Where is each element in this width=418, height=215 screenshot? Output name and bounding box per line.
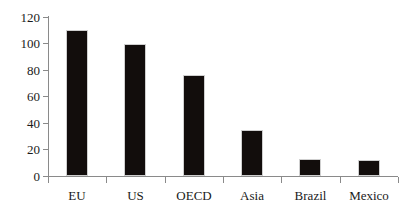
x-axis-tick [340,177,341,183]
bar-chart: 0 20 40 60 80 100 120 EU US OECD Asi [0,0,418,215]
x-axis-label-oecd: OECD [165,188,223,203]
y-axis-tick-label-40: 40 [0,117,40,130]
y-axis-tick-label-text: 120 [2,11,40,24]
bar-oecd [183,75,205,176]
x-axis-tick [281,177,282,183]
bar-us [124,44,146,177]
y-axis-tick-label-20: 20 [0,143,40,156]
bar-mexico [358,160,380,176]
y-axis-tick-label-80: 80 [0,64,40,77]
y-axis-tick-label-text: 0 [2,170,40,183]
x-axis-tick [48,177,49,183]
bars-container [48,17,398,176]
y-axis-tick-label-text: 80 [2,64,40,77]
y-axis-tick-label-120: 120 [0,11,40,24]
x-axis-tick [106,177,107,183]
y-axis-tick-label-text: 20 [2,143,40,156]
y-axis-tick-label-text: 40 [2,117,40,130]
y-axis-tick-label-text: 60 [2,90,40,103]
bar-asia [241,130,263,176]
x-axis-label-brazil: Brazil [281,188,340,203]
x-axis-tick [165,177,166,183]
x-axis-label-mexico: Mexico [340,188,398,203]
bar-brazil [299,159,321,176]
x-axis-label-asia: Asia [223,188,281,203]
x-axis-label-us: US [106,188,165,203]
y-axis-tick-label-0: 0 [0,170,40,183]
bar-eu [66,30,88,176]
y-axis-tick-label-60: 60 [0,90,40,103]
y-axis-tick-label-text: 100 [2,37,40,50]
x-axis-label-eu: EU [48,188,106,203]
y-axis-tick-label-100: 100 [0,37,40,50]
x-axis-tick [398,177,399,183]
x-axis-tick [223,177,224,183]
